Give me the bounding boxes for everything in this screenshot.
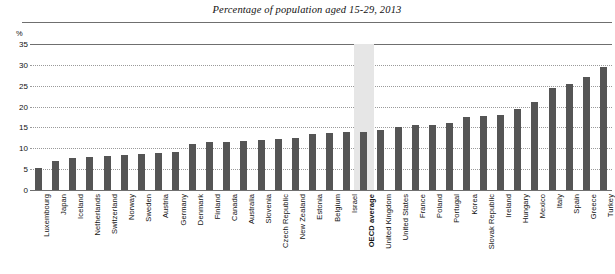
bar <box>514 109 521 190</box>
y-tick-label-35: 35 <box>10 40 28 49</box>
x-axis-label: Iceland <box>76 194 85 219</box>
bar <box>104 156 111 190</box>
bar <box>69 158 76 190</box>
bar <box>223 142 230 190</box>
x-axis-label: Canada <box>230 194 239 221</box>
bar <box>52 161 59 190</box>
bar <box>600 67 607 190</box>
x-axis-label: Luxembourg <box>42 194 51 237</box>
bar <box>292 138 299 190</box>
x-axis-label: Portugal <box>452 194 461 223</box>
bar <box>240 141 247 190</box>
bar <box>480 116 487 190</box>
x-axis-label: Spain <box>572 194 581 214</box>
bar <box>86 157 93 190</box>
title-divider <box>22 22 612 23</box>
gridline-30 <box>30 65 612 66</box>
x-axis-label: Netherlands <box>93 194 102 236</box>
bar <box>121 155 128 190</box>
bar <box>497 115 504 190</box>
y-tick-label-15: 15 <box>10 123 28 132</box>
gridline-15 <box>30 127 612 128</box>
x-axis-label: Finland <box>213 194 222 219</box>
chart-title: Percentage of population aged 15-29, 201… <box>0 4 614 15</box>
bar <box>172 152 179 190</box>
x-axis-label: Switzerland <box>110 194 119 234</box>
bar <box>583 77 590 190</box>
bar <box>395 127 402 190</box>
bar <box>138 154 145 190</box>
y-tick-label-20: 20 <box>10 102 28 111</box>
gridline-10 <box>30 148 612 149</box>
bar <box>155 153 162 190</box>
bar <box>326 133 333 190</box>
y-tick-label-25: 25 <box>10 81 28 90</box>
gridline-20 <box>30 107 612 108</box>
x-axis-label: Estonia <box>315 194 324 220</box>
bar <box>35 168 42 190</box>
y-tick-label-10: 10 <box>10 144 28 153</box>
y-tick-label-5: 5 <box>10 165 28 174</box>
x-axis-label: United States <box>401 194 410 240</box>
x-axis-label: United Kingdom <box>384 194 393 249</box>
x-axis-label: Ireland <box>504 194 513 218</box>
x-axis-label: Belgium <box>333 194 342 222</box>
x-axis-label: Slovak Republic <box>487 194 496 249</box>
x-axis-label: Norway <box>127 194 136 220</box>
y-tick-label-0: 0 <box>10 186 28 195</box>
bar <box>258 140 265 190</box>
bar <box>377 130 384 190</box>
bar <box>206 142 213 190</box>
y-tick-label-30: 30 <box>10 60 28 69</box>
x-axis-label: Italy <box>555 194 564 208</box>
x-axis-label: Slovenia <box>264 194 273 224</box>
x-axis-label: Poland <box>435 194 444 218</box>
bar <box>566 84 573 190</box>
x-axis-label: Germany <box>179 194 188 226</box>
x-axis-label: Denmark <box>196 194 205 225</box>
x-axis-label: Hungary <box>521 194 530 223</box>
bar <box>463 117 470 190</box>
bar <box>360 132 367 190</box>
x-axis-label: Austria <box>161 194 170 218</box>
x-axis-label: Turkey <box>606 194 615 217</box>
bar <box>412 125 419 190</box>
x-axis-label: Japan <box>59 194 68 215</box>
bar <box>189 144 196 190</box>
bar <box>446 123 453 190</box>
x-axis-label: Israel <box>350 194 359 213</box>
bar <box>429 125 436 190</box>
x-axis-label: Sweden <box>144 194 153 222</box>
gridline-0 <box>30 190 612 191</box>
bar <box>549 88 556 190</box>
gridline-5 <box>30 169 612 170</box>
x-axis-label: New Zealand <box>298 194 307 239</box>
bar <box>309 134 316 190</box>
x-axis-label: Greece <box>589 194 598 219</box>
x-axis-label: Czech Republic <box>281 194 290 248</box>
plot-area <box>30 44 612 190</box>
x-axis-label: OECD average <box>367 194 376 247</box>
bar <box>343 132 350 190</box>
x-axis-label: Mexico <box>538 194 547 218</box>
bar <box>531 102 538 190</box>
bar <box>275 139 282 190</box>
y-axis-unit-label: % <box>16 29 23 38</box>
x-axis-label: France <box>418 194 427 218</box>
gridline-25 <box>30 86 612 87</box>
x-axis-label: Korea <box>470 194 479 215</box>
x-axis-label: Australia <box>247 194 256 224</box>
